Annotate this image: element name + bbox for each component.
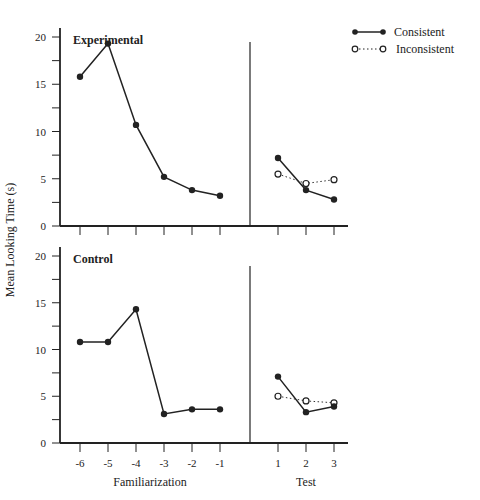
y-tick-label: 5 bbox=[41, 390, 47, 402]
inconsistent-point bbox=[303, 398, 309, 404]
y-tick-label: 0 bbox=[41, 437, 47, 449]
x-tick-label: 1 bbox=[275, 457, 281, 469]
data-point bbox=[161, 411, 167, 417]
y-tick-label: 10 bbox=[35, 126, 47, 138]
consistent-line bbox=[278, 377, 334, 413]
x-tick-label: 3 bbox=[331, 457, 337, 469]
consistent-point bbox=[275, 155, 281, 161]
x-tick-label: -5 bbox=[103, 457, 113, 469]
y-tick-label: 15 bbox=[35, 297, 47, 309]
data-point bbox=[217, 406, 223, 412]
y-tick-label: 0 bbox=[41, 220, 47, 232]
x-tick-label: -6 bbox=[75, 457, 85, 469]
y-tick-label: 20 bbox=[35, 250, 47, 262]
inconsistent-point bbox=[303, 180, 309, 186]
data-point bbox=[189, 187, 195, 193]
legend: Consistent Inconsistent bbox=[352, 25, 454, 56]
panel-experimental: 05101520Experimental bbox=[35, 28, 348, 235]
data-point bbox=[77, 339, 83, 345]
x-tick-label: 2 bbox=[303, 457, 309, 469]
y-tick-label: 20 bbox=[35, 31, 47, 43]
familiarization-line bbox=[80, 44, 220, 196]
x-tick-label: -4 bbox=[131, 457, 141, 469]
panel-control: 05101520123-6-5-4-3-2-1Control bbox=[35, 247, 348, 469]
panel-title: Control bbox=[73, 252, 113, 266]
consistent-point bbox=[303, 187, 309, 193]
x-tick-label: -1 bbox=[215, 457, 224, 469]
inconsistent-point bbox=[331, 177, 337, 183]
x-axis-label-familiarization: Familiarization bbox=[113, 475, 186, 489]
data-point bbox=[77, 73, 83, 79]
chart-figure: Mean Looking Time (s) Consistent Inconsi… bbox=[0, 0, 480, 500]
y-tick-label: 5 bbox=[41, 173, 47, 185]
data-point bbox=[133, 122, 139, 128]
data-point bbox=[133, 306, 139, 312]
inconsistent-point bbox=[275, 393, 281, 399]
consistent-point bbox=[331, 403, 337, 409]
x-tick-label: -3 bbox=[159, 457, 169, 469]
data-point bbox=[217, 193, 223, 199]
legend-consistent: Consistent bbox=[394, 25, 445, 39]
consistent-point bbox=[331, 196, 337, 202]
familiarization-line bbox=[80, 309, 220, 414]
consistent-line bbox=[278, 158, 334, 200]
inconsistent-point bbox=[275, 171, 281, 177]
x-axis-label-test: Test bbox=[296, 475, 316, 489]
data-point bbox=[105, 339, 111, 345]
consistent-point bbox=[275, 373, 281, 379]
data-point bbox=[105, 40, 111, 46]
consistent-point bbox=[303, 409, 309, 415]
y-tick-label: 15 bbox=[35, 78, 47, 90]
data-point bbox=[189, 406, 195, 412]
y-tick-label: 10 bbox=[35, 344, 47, 356]
legend-inconsistent: Inconsistent bbox=[396, 42, 455, 56]
y-axis-label: Mean Looking Time (s) bbox=[3, 183, 17, 297]
data-point bbox=[161, 174, 167, 180]
x-tick-label: -2 bbox=[187, 457, 196, 469]
